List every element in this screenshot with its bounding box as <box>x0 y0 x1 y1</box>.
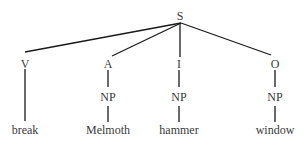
edge-s-o <box>181 23 271 55</box>
leaf-break: break <box>12 124 39 136</box>
leaf-window: window <box>256 124 295 136</box>
node-o: O <box>271 58 280 70</box>
node-i: I <box>177 58 181 70</box>
node-np-o: NP <box>267 91 282 103</box>
edge-s-a <box>112 23 181 56</box>
leaf-hammer: hammer <box>159 124 198 136</box>
node-a: A <box>104 58 113 70</box>
node-s: S <box>177 10 184 22</box>
edge-s-v <box>25 23 181 52</box>
node-v: V <box>21 58 30 70</box>
node-np-a: NP <box>100 91 115 103</box>
node-np-i: NP <box>171 91 186 103</box>
leaf-melmoth: Melmoth <box>86 124 130 136</box>
